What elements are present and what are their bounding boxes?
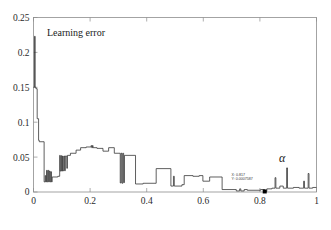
x-tick-label: 0.8	[254, 196, 266, 206]
y-tick-label: 0.1	[18, 118, 30, 128]
y-tick-label: 0	[25, 187, 30, 197]
datatip-y-text: Y: 0.0007587	[232, 177, 253, 181]
y-tick-label: 0.05	[13, 153, 30, 163]
y-axis-tick-labels: 00.050.10.150.20.25	[13, 13, 30, 198]
y-tick-label: 0.15	[13, 83, 30, 93]
datatip-marker[interactable]	[263, 189, 267, 193]
x-tick-label: 0.2	[84, 196, 96, 206]
plot-frame	[34, 18, 317, 193]
learning-error-chart: 00.050.10.150.20.25 00.20.40.60.81 X: 0.…	[0, 0, 331, 230]
x-tick-label: 1	[314, 196, 319, 206]
alpha-axis-symbol: α	[279, 151, 286, 165]
x-axis-ticks	[34, 18, 317, 193]
datatip-x-text: X: 0.817	[232, 173, 245, 177]
learning-error-label: Learning error	[47, 27, 106, 38]
y-tick-label: 0.2	[18, 48, 30, 58]
x-tick-label: 0	[31, 196, 36, 206]
figure-canvas: 00.050.10.150.20.25 00.20.40.60.81 X: 0.…	[0, 0, 331, 230]
x-tick-label: 0.4	[141, 196, 153, 206]
learning-error-curve	[34, 36, 317, 191]
y-tick-label: 0.25	[13, 13, 30, 23]
x-tick-label: 0.6	[197, 196, 209, 206]
data-series-group	[34, 36, 317, 191]
x-axis-tick-labels: 00.20.40.60.81	[31, 196, 319, 206]
